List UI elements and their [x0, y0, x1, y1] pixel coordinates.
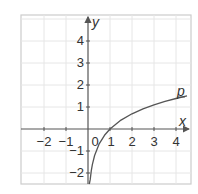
x-tick-label: 1: [107, 134, 114, 149]
x-tick-label: 2: [128, 134, 135, 149]
y-tick-label: −1: [69, 143, 84, 158]
y-tick-label: 1: [77, 99, 84, 114]
plot-frame: [21, 15, 191, 184]
chart: −2 −1 0 1 2 3 4 4 3 2 1 −1 −2 y x p: [0, 0, 198, 194]
x-axis-label: x: [178, 113, 187, 129]
y-tick-label: 2: [77, 77, 84, 92]
y-tick-label: 3: [77, 55, 84, 70]
plot-svg: −2 −1 0 1 2 3 4 4 3 2 1 −1 −2 y x p: [0, 0, 198, 194]
y-tick-label: 4: [77, 33, 84, 48]
x-tick-label: 3: [150, 134, 157, 149]
y-tick-label: −2: [69, 165, 84, 180]
x-tick-label: −2: [37, 134, 52, 149]
origin-label: 0: [91, 134, 98, 149]
y-axis-label: y: [91, 14, 100, 30]
x-tick-label: 4: [172, 134, 179, 149]
